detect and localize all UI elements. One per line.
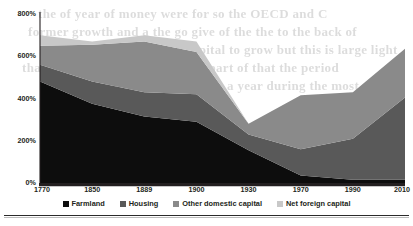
plot-area: 0%200%400%600%800% (0, 0, 413, 196)
legend-item-label: Net foreign capital (286, 200, 350, 207)
y-tick-label: 200% (2, 137, 36, 144)
chart-legend: FarmlandHousingOther domestic capitalNet… (0, 197, 413, 211)
y-axis-tick-labels: 0%200%400%600%800% (0, 0, 36, 196)
legend-item[interactable]: Housing (120, 200, 159, 207)
x-tick-label: 1990 (345, 186, 361, 193)
legend-item[interactable]: Farmland (63, 200, 105, 207)
legend-item[interactable]: Other domestic capital (173, 200, 262, 207)
legend-swatch-icon (120, 201, 126, 207)
legend-item-label: Housing (129, 200, 159, 207)
x-tick-label: 1970 (293, 186, 309, 193)
page-bottom-rule (4, 215, 409, 216)
x-tick-label: 2010 (394, 186, 410, 193)
legend-swatch-icon (63, 201, 69, 207)
x-tick-label: 1850 (84, 186, 100, 193)
y-tick-label: 400% (2, 95, 36, 102)
y-tick-label: 600% (2, 53, 36, 60)
x-axis-tick-labels: 17701850188919001930197019902010 (0, 183, 413, 196)
legend-item[interactable]: Net foreign capital (277, 200, 350, 207)
page-bottom-rule-secondary (4, 217, 409, 218)
legend-item-label: Other domestic capital (182, 200, 262, 207)
x-tick-label: 1770 (34, 186, 50, 193)
y-tick-label: 800% (2, 10, 36, 17)
chart-canvas (0, 0, 413, 196)
x-tick-label: 1930 (241, 186, 257, 193)
stacked-area-chart-figure: 0%200%400%600%800% 177018501889190019301… (0, 0, 413, 226)
x-tick-label: 1889 (136, 186, 152, 193)
x-tick-label: 1900 (188, 186, 204, 193)
legend-item-label: Farmland (72, 200, 105, 207)
legend-swatch-icon (173, 201, 179, 207)
legend-swatch-icon (277, 201, 283, 207)
